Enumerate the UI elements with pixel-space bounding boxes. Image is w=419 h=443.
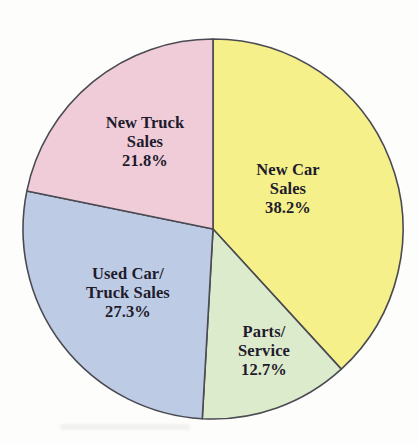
- slice-label-line1: Used Car/: [48, 264, 208, 283]
- slice-label-line1: Parts/: [208, 322, 320, 341]
- slice-value: 21.8%: [75, 151, 215, 170]
- slice-label-line1: New Car: [228, 160, 348, 179]
- slice-label-line2: Sales: [228, 179, 348, 198]
- slice-label-line2: Service: [208, 341, 320, 360]
- slice-label-used-car-truck-sales: Used Car/ Truck Sales 27.3%: [48, 264, 208, 321]
- slice-label-new-truck-sales: New Truck Sales 21.8%: [75, 113, 215, 170]
- slice-label-parts-service: Parts/ Service 12.7%: [208, 322, 320, 379]
- slice-label-line1: New Truck: [75, 113, 215, 132]
- pie-chart: New Car Sales 38.2% Parts/ Service 12.7%…: [0, 0, 419, 443]
- slice-value: 12.7%: [208, 360, 320, 379]
- slice-label-new-car-sales: New Car Sales 38.2%: [228, 160, 348, 217]
- slice-value: 27.3%: [48, 302, 208, 321]
- slice-label-line2: Sales: [75, 132, 215, 151]
- scan-artifact: [60, 424, 190, 430]
- slice-value: 38.2%: [228, 198, 348, 217]
- slice-label-line2: Truck Sales: [48, 283, 208, 302]
